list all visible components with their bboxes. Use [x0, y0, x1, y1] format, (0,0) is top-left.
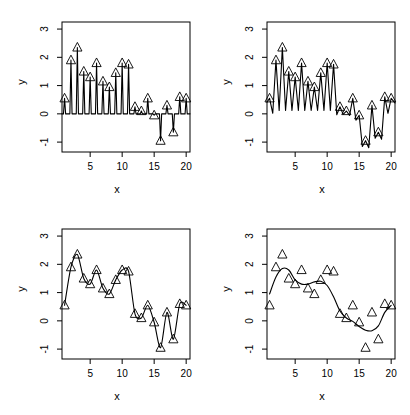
- x-tick-label: 15: [149, 161, 161, 172]
- data-point-triangle: [162, 307, 171, 316]
- plot-svg-0: 51015203210-1: [0, 0, 205, 207]
- panel-top-right: 51015203210-1 y x: [205, 0, 410, 207]
- fit-curve: [270, 268, 392, 331]
- y-tick-label: -1: [244, 344, 255, 353]
- plot-svg-1: 51015203210-1: [205, 0, 410, 207]
- plot-area-3: 51015203210-1 y x: [205, 207, 410, 414]
- data-point-triangle: [265, 300, 274, 309]
- data-point-triangle: [374, 334, 383, 343]
- y-tick-label: -1: [39, 344, 50, 353]
- x-tick-label: 5: [292, 161, 298, 172]
- y-tick-label: 0: [39, 318, 50, 324]
- y-axis-label-0: y: [11, 75, 31, 89]
- y-tick-label: 2: [244, 54, 255, 60]
- y-tick-label: 1: [244, 82, 255, 88]
- data-point-triangle: [297, 265, 306, 274]
- y-tick-label: 1: [39, 82, 50, 88]
- y-axis-label-1: y: [216, 75, 236, 89]
- x-tick-label: 5: [292, 368, 298, 379]
- x-tick-label: 10: [117, 161, 129, 172]
- data-point-triangle: [310, 289, 319, 298]
- y-axis-label-3: y: [216, 282, 236, 296]
- panel-top-left: 51015203210-1 y x: [0, 0, 205, 207]
- x-tick-label: 20: [386, 368, 398, 379]
- y-tick-label: 0: [39, 111, 50, 117]
- data-point-triangle: [143, 300, 152, 309]
- plot-svg-3: 51015203210-1: [205, 207, 410, 414]
- panel-bottom-right: 51015203210-1 y x: [205, 207, 410, 414]
- data-point-triangle: [271, 262, 280, 271]
- x-tick-label: 20: [181, 368, 193, 379]
- y-axis-label-2: y: [11, 282, 31, 296]
- panel-bottom-left: 51015203210-1 y x: [0, 207, 205, 414]
- data-point-triangle: [278, 249, 287, 258]
- y-tick-label: 3: [244, 233, 255, 239]
- y-tick-label: 2: [39, 54, 50, 60]
- data-point-triangle: [92, 265, 101, 274]
- x-tick-label: 15: [354, 368, 366, 379]
- data-point-triangle: [361, 343, 370, 352]
- data-markers: [60, 249, 191, 351]
- data-markers: [60, 42, 191, 144]
- x-tick-label: 10: [322, 161, 334, 172]
- x-axis-label-3: x: [315, 389, 329, 403]
- plot-area-0: 51015203210-1 y x: [0, 0, 205, 207]
- y-tick-label: 0: [244, 318, 255, 324]
- plot-area-1: 51015203210-1 y x: [205, 0, 410, 207]
- fit-line: [62, 47, 190, 140]
- data-point-triangle: [367, 307, 376, 316]
- x-tick-label: 15: [149, 368, 161, 379]
- y-tick-label: 3: [39, 26, 50, 32]
- x-tick-label: 5: [87, 161, 93, 172]
- y-tick-label: 0: [244, 111, 255, 117]
- data-point-triangle: [348, 300, 357, 309]
- x-axis-label-0: x: [110, 182, 124, 196]
- x-tick-label: 15: [354, 161, 366, 172]
- fit-curve: [62, 47, 190, 140]
- x-axis-label-1: x: [315, 182, 329, 196]
- y-tick-label: 1: [244, 289, 255, 295]
- plot-svg-2: 51015203210-1: [0, 207, 205, 414]
- fit-line: [270, 268, 392, 331]
- figure-panel-grid: 51015203210-1 y x 51015203210-1 y x 5101…: [0, 0, 410, 415]
- x-tick-label: 20: [181, 161, 193, 172]
- fit-curve: [65, 254, 187, 348]
- x-tick-label: 10: [117, 368, 129, 379]
- y-tick-label: 3: [39, 233, 50, 239]
- data-markers: [265, 249, 396, 351]
- y-tick-label: 1: [39, 289, 50, 295]
- plot-area-2: 51015203210-1 y x: [0, 207, 205, 414]
- x-tick-label: 20: [386, 161, 398, 172]
- fit-line: [65, 254, 187, 348]
- y-tick-label: -1: [244, 137, 255, 146]
- y-tick-label: -1: [39, 137, 50, 146]
- y-tick-label: 3: [244, 26, 255, 32]
- y-tick-label: 2: [244, 261, 255, 267]
- y-tick-label: 2: [39, 261, 50, 267]
- x-tick-label: 10: [322, 368, 334, 379]
- x-axis-label-2: x: [110, 389, 124, 403]
- x-tick-label: 5: [87, 368, 93, 379]
